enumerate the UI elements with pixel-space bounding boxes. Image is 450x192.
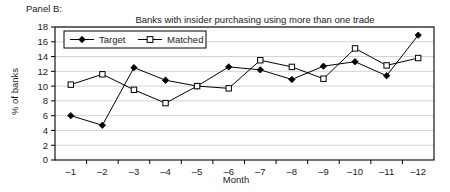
data-point-marker-target	[162, 77, 168, 83]
data-point-marker-matched	[258, 58, 263, 63]
y-tick-label: 12	[37, 66, 48, 77]
y-tick-label: 4	[43, 125, 48, 136]
data-point-marker-target	[320, 63, 326, 69]
data-point-marker-target	[131, 64, 137, 70]
y-tick-label: 16	[37, 36, 48, 47]
y-axis-label: % of banks	[9, 62, 20, 122]
data-point-marker-target	[226, 64, 232, 70]
y-tick-label: 14	[37, 51, 48, 62]
y-tick-label: 10	[37, 81, 48, 92]
data-point-marker-matched	[321, 76, 326, 81]
data-point-marker-matched	[384, 63, 389, 68]
data-point-marker-target	[257, 67, 263, 73]
data-point-marker-matched	[68, 82, 73, 87]
data-point-marker-target	[68, 112, 74, 118]
data-point-marker-matched	[100, 72, 105, 77]
y-axis-ticks: 024681012141618	[37, 21, 55, 165]
y-tick-label: 18	[37, 21, 48, 32]
data-point-marker-target	[352, 59, 358, 65]
legend-label: Matched	[167, 34, 203, 45]
data-point-marker-matched	[131, 87, 136, 92]
data-point-marker-target	[99, 122, 105, 128]
data-point-marker-matched	[289, 64, 294, 69]
panel-label: Panel B:	[26, 3, 62, 14]
chart-legend: TargetMatched	[64, 31, 206, 48]
y-tick-label: 2	[43, 140, 48, 151]
series-line-target	[71, 35, 418, 125]
data-point-marker-matched	[226, 86, 231, 91]
data-point-marker-target	[289, 76, 295, 82]
y-tick-label: 6	[43, 110, 48, 121]
chart-title: Banks with insider purchasing using more…	[70, 14, 440, 25]
x-axis-label: Month	[56, 174, 416, 185]
data-point-marker-matched	[194, 83, 199, 88]
data-point-marker-matched	[163, 100, 168, 105]
legend-marker-matched	[147, 37, 153, 43]
data-point-marker-matched	[416, 55, 421, 60]
plot-area: 024681012141618 –1–2–3–4–5–6–7–8–9–10–11…	[0, 0, 450, 192]
legend-label: Target	[99, 34, 126, 45]
chart-figure: Panel B: Banks with insider purchasing u…	[0, 0, 450, 192]
data-point-marker-matched	[352, 46, 357, 51]
y-tick-label: 0	[43, 154, 48, 165]
y-tick-label: 8	[43, 95, 48, 106]
